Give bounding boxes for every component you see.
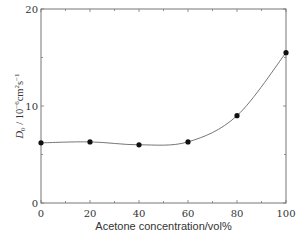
x-tick-label: 100 — [276, 208, 295, 219]
x-tick-label: 20 — [84, 208, 97, 219]
x-tick-label: 40 — [133, 208, 146, 219]
plot-frame — [41, 9, 286, 203]
y-tick-label: 10 — [25, 101, 38, 112]
data-curve — [41, 53, 286, 146]
data-point — [87, 139, 92, 144]
x-tick-label: 60 — [182, 208, 195, 219]
y-tick-label: 0 — [32, 198, 38, 209]
x-tick-label: 0 — [38, 208, 44, 219]
x-axis-label: Acetone concentration/vol% — [95, 220, 232, 232]
data-markers — [38, 50, 288, 147]
chart: 020406080100 01020 Acetone concentration… — [0, 0, 302, 243]
data-point — [283, 50, 288, 55]
axis-ticks — [41, 9, 286, 203]
data-point — [136, 142, 141, 147]
y-tick-labels: 01020 — [25, 4, 38, 209]
y-tick-label: 20 — [25, 4, 38, 15]
x-tick-labels: 020406080100 — [38, 208, 296, 219]
data-point — [234, 113, 239, 118]
x-tick-label: 80 — [231, 208, 244, 219]
data-point — [185, 139, 190, 144]
data-point — [38, 140, 43, 145]
